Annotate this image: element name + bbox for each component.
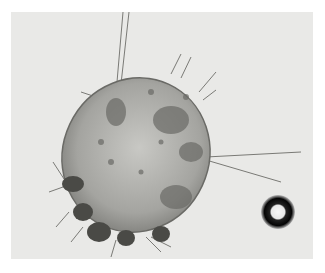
- micrograph: [11, 12, 313, 259]
- air-bubble: [261, 195, 295, 229]
- micrograph-frame: [11, 12, 313, 259]
